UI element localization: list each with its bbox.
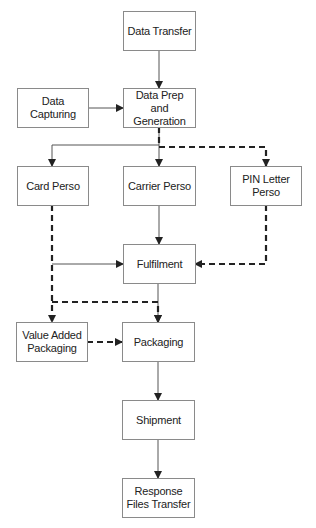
node-pin-letter-perso: PIN Letter Perso [230, 166, 302, 206]
edge-pin-letter-perso-to-fulfilment [195, 205, 266, 264]
node-value-added-packaging: Value Added Packaging [16, 322, 88, 362]
node-data-transfer: Data Transfer [123, 11, 196, 51]
node-data-capturing: Data Capturing [17, 88, 89, 128]
node-fulfilment: Fulfilment [123, 244, 196, 284]
node-shipment: Shipment [122, 400, 195, 440]
edge-card-perso-to-packaging [52, 302, 158, 322]
node-packaging: Packaging [122, 322, 195, 362]
node-data-prep: Data Prep and Generation [123, 88, 196, 128]
node-carrier-perso: Carrier Perso [123, 166, 196, 206]
node-card-perso: Card Perso [17, 166, 89, 206]
node-response-files-transfer: Response Files Transfer [122, 478, 195, 518]
edge-data-prep-to-card-perso [52, 145, 159, 166]
edge-data-prep-to-pin-letter-perso [159, 127, 266, 166]
